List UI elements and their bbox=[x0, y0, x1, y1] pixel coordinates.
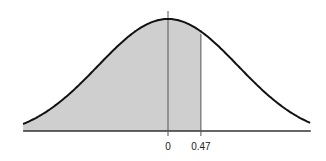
shaded-area-left-of-0.47 bbox=[23, 19, 201, 131]
tick-label-0.47: 0.47 bbox=[191, 141, 211, 152]
normal-distribution-chart: 0 0.47 bbox=[0, 0, 326, 161]
tick-label-zero: 0 bbox=[165, 141, 171, 152]
